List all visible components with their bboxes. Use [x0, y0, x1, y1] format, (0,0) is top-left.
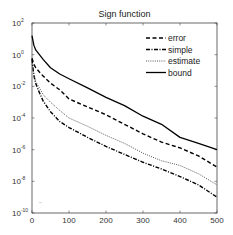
- y-tick-exponent: 0: [21, 49, 24, 55]
- y-tick-exponent: -8: [21, 175, 26, 181]
- x-tick-label: 500: [210, 216, 224, 225]
- y-tick-label: 10-8: [12, 175, 26, 186]
- y-tick-exponent: -6: [21, 144, 26, 150]
- x-tick-label: 200: [99, 216, 113, 225]
- y-tick-label: 10-2: [12, 80, 26, 91]
- y-tick-label: 100: [12, 49, 24, 60]
- y-tick-label: 102: [12, 17, 24, 28]
- legend-label-estimate: estimate: [168, 56, 200, 66]
- y-tick-exponent: -4: [21, 112, 26, 118]
- x-tick-label: 100: [62, 216, 76, 225]
- plot-artifact-mark: [39, 202, 42, 203]
- chart-title: Sign function: [98, 9, 150, 19]
- legend-label-bound: bound: [168, 68, 192, 78]
- x-tick-label: 0: [30, 216, 35, 225]
- legend-label-error: error: [168, 33, 186, 43]
- y-tick-label: 10-4: [12, 112, 26, 123]
- x-tick-label: 300: [136, 216, 150, 225]
- legend-label-simple: simple: [168, 45, 193, 55]
- sign-function-chart: Sign function 0100200300400500 10210010-…: [0, 0, 233, 235]
- y-tick-exponent: -10: [21, 207, 28, 213]
- y-tick-exponent: 2: [21, 17, 24, 23]
- y-tick-label: 10-6: [12, 144, 26, 155]
- y-tick-exponent: -2: [21, 80, 26, 86]
- x-tick-label: 400: [173, 216, 187, 225]
- y-tick-label: 10-10: [12, 207, 28, 218]
